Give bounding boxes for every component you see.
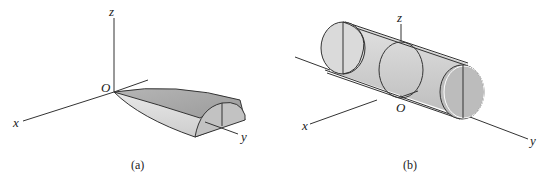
caption-a: (a) [131, 158, 144, 172]
origin-label-b: O [396, 100, 406, 115]
y-label-a: y [239, 129, 247, 144]
figure-a: z x y O (a) [12, 4, 247, 172]
x-axis-a [23, 92, 114, 121]
figure-b: z x y O (b) [295, 10, 536, 172]
y-axis-b [470, 117, 528, 139]
z-label-b: z [396, 10, 402, 25]
x-label-a: x [12, 115, 19, 130]
figure-canvas: z x y O (a) z x y O (b) [0, 0, 551, 184]
x-label-b: x [301, 118, 308, 133]
origin-label-a: O [101, 80, 111, 95]
caption-b: (b) [403, 158, 417, 172]
x-axis-b [310, 100, 377, 124]
y-label-b: y [528, 133, 536, 148]
z-label-a: z [108, 4, 114, 19]
